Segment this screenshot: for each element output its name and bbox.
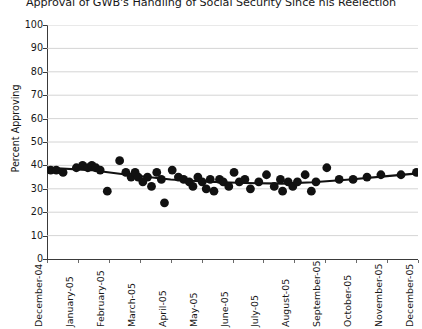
x-axis-tick-label: April-05 (157, 290, 168, 327)
x-axis-tick-label: March-05 (126, 283, 137, 327)
x-axis-tick-mark (263, 260, 264, 263)
x-axis-tick-mark (171, 260, 172, 263)
chart-figure: Approval of GWB's Handling of Social Sec… (0, 0, 422, 329)
x-axis-tick-mark (325, 260, 326, 263)
x-axis-tick-label: September-05 (311, 260, 322, 327)
x-axis-tick-label: May-05 (188, 292, 199, 327)
x-axis-tick-label: January-05 (64, 276, 75, 327)
x-axis-tick-mark (47, 260, 48, 263)
x-axis-tick-mark (418, 260, 419, 263)
x-axis-tick-label: July-05 (249, 295, 260, 327)
x-axis-tick-mark (233, 260, 234, 263)
x-axis-tick-label: June-05 (219, 291, 230, 327)
x-axis-tick-mark (356, 260, 357, 263)
x-axis-tick-mark (109, 260, 110, 263)
x-axis-tick-mark (202, 260, 203, 263)
x-axis-tick-label: December-04 (33, 264, 44, 327)
x-axis-tick-label: February-05 (95, 270, 106, 327)
x-axis-tick-label: August-05 (280, 279, 291, 327)
x-axis-tick-mark (140, 260, 141, 263)
x-axis-tick-mark (78, 260, 79, 263)
x-axis-tick-label: December-05 (404, 264, 415, 327)
x-axis-tick-mark (294, 260, 295, 263)
x-axis-tick-mark (387, 260, 388, 263)
x-axis-tick-label: October-05 (342, 275, 353, 327)
x-axis-tick-labels: December-04January-05February-05March-05… (0, 0, 422, 329)
x-axis-tick-label: November-05 (373, 264, 384, 327)
